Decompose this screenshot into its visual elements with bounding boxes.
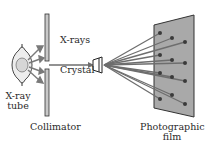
collimator-upper-plate: [45, 14, 49, 61]
collimator-label: Collimator: [30, 122, 81, 132]
xrays-label: X-rays: [60, 35, 90, 45]
photographic-film-plate: [154, 15, 194, 117]
film-label-line2: film: [140, 132, 204, 142]
crystal-label: Crystal: [60, 65, 95, 75]
xray-tube: [12, 44, 32, 86]
xray-tube-label-line2: tube: [2, 101, 34, 111]
xray-tube-label: X-ray tube: [2, 91, 34, 111]
collimator-lower-plate: [45, 69, 49, 116]
photographic-film-label: Photographic film: [140, 122, 204, 142]
